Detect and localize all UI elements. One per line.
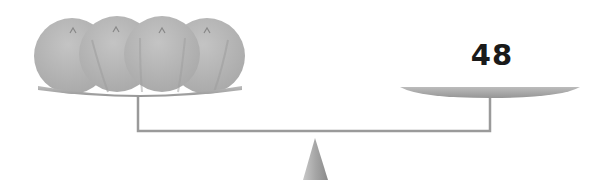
right-pan-dish (400, 87, 580, 98)
left-pan (34, 16, 245, 97)
beam (138, 96, 490, 131)
fulcrum (303, 138, 328, 180)
right-pan (400, 87, 580, 98)
balance-scale-graphic (0, 0, 608, 192)
balance-scale-diagram: 48 (0, 0, 608, 192)
right-pan-weight-label: 48 (452, 38, 532, 72)
balls-group (34, 16, 245, 94)
